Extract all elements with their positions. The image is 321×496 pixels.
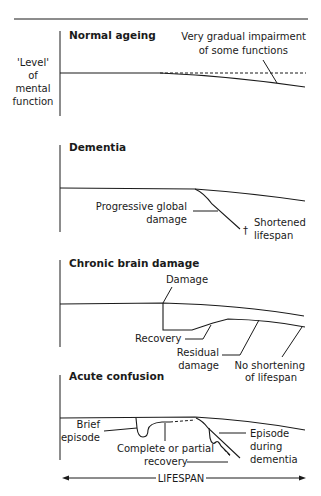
y-label-line-1: 'Level' xyxy=(17,57,49,68)
panel-3-residual-label-1: Residual xyxy=(177,347,219,358)
y-axis-label: 'Level' of mental function xyxy=(13,57,54,107)
panel-3-residual-label-2: damage xyxy=(178,360,219,371)
panel-1-title: Normal ageing xyxy=(69,29,156,41)
panel-3-recovery-leader xyxy=(185,325,211,339)
panel-3-title: Chronic brain damage xyxy=(69,257,199,269)
dagger-icon: † xyxy=(243,225,248,236)
panel-3-damage-label: Damage xyxy=(166,274,208,285)
lifespan-axis: LIFESPAN xyxy=(62,473,306,484)
y-label-line-3: mental xyxy=(15,83,50,94)
panel-2-damage-label-2: damage xyxy=(146,214,187,225)
mental-function-lifespan-diagram: 'Level' of mental function Normal ageing… xyxy=(0,0,321,496)
panel-4-episode-label-1: Episode xyxy=(250,428,289,439)
y-label-line-4: function xyxy=(13,96,54,107)
panel-2-lifespan-label-2: lifespan xyxy=(254,230,293,241)
panel-normal-ageing: Normal ageing Very gradual impairment of… xyxy=(60,29,306,116)
arrow-left-icon xyxy=(62,476,69,481)
panel-4-recovery-label-1: Complete or partial xyxy=(117,443,214,454)
panel-3-recovery-label: Recovery xyxy=(135,333,181,344)
panel-3-no-shortening-label-1: No shortening xyxy=(235,360,305,371)
panel-chronic-brain-damage: Chronic brain damage Damage Recovery Res… xyxy=(60,257,305,383)
arrow-right-icon xyxy=(299,476,306,481)
panel-3-residual-leader xyxy=(222,320,259,355)
panel-4-title: Acute confusion xyxy=(69,370,164,382)
panel-4-episode-label-2: during xyxy=(250,441,282,452)
panel-2-lifespan-label-1: Shortened xyxy=(254,217,306,228)
panel-1-annotation-line-1: Very gradual impairment xyxy=(181,31,306,42)
panel-4-brief-label-2: episode xyxy=(61,432,100,443)
panel-1-annotation-line-2: of some functions xyxy=(199,45,288,56)
panel-4-brief-label-1: Brief xyxy=(77,419,101,430)
panel-2-decline xyxy=(195,189,240,229)
panel-acute-confusion: Acute confusion Brief episode Complete o… xyxy=(60,370,305,467)
panel-4-partial-recovery-dashed xyxy=(170,420,195,422)
lifespan-label: LIFESPAN xyxy=(158,473,205,484)
panel-3-damage-leader xyxy=(163,287,172,303)
panel-4-episode-label-3: dementia xyxy=(250,454,298,465)
panel-3-baseline-curve xyxy=(60,303,304,316)
panel-1-curve xyxy=(60,73,305,87)
panel-2-title: Dementia xyxy=(69,141,126,153)
panel-2-damage-label-1: Progressive global xyxy=(96,201,187,212)
panel-3-no-shortening-leader xyxy=(282,327,302,357)
panel-dementia: Dementia Progressive global damage † Sho… xyxy=(60,141,306,241)
y-label-line-2: of xyxy=(28,70,38,81)
panel-4-recovery-label-2: recovery xyxy=(144,456,188,467)
panel-2-curve xyxy=(60,188,305,201)
panel-1-leader-line xyxy=(263,60,277,83)
panel-4-brief-leader xyxy=(104,428,137,431)
panel-3-no-shortening-label-2: of lifespan xyxy=(245,372,297,383)
